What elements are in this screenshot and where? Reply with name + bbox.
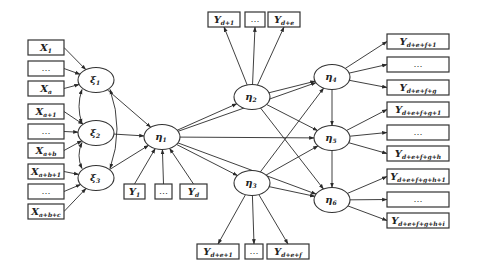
measurement-arrow [346,110,387,131]
latent-exogenous-xi3: ξ3 [78,166,114,191]
node-label: … [414,194,423,204]
structural-arrow-eta2-eta5 [266,104,317,130]
structural-arrow-eta1-eta5 [180,137,314,138]
measurement-arrow [259,195,288,244]
indicator-box-yd1: Yd+1 [208,12,240,27]
node-label: … [250,246,259,256]
node-label: … [251,14,260,24]
measurement-arrow [252,195,254,244]
covariance-arrow-xi1-xi2 [79,90,82,124]
measurement-arrow [64,172,79,175]
measurement-arrow [64,132,78,133]
measurement-arrow [64,48,86,70]
measurement-arrow [64,84,79,88]
indicator-box-y1: Y1 [124,184,145,199]
indicator-box-r9: Yd+e+f+g+h+i [387,213,449,228]
node-label: … [414,127,423,137]
measurement-arrow [257,27,284,85]
indicator-box-r1: Yd+e+f+1 [387,34,449,49]
indicator-box-x3: Xa [28,81,64,96]
measurement-arrow [350,133,387,137]
indicator-box-x1: X1 [28,40,64,55]
latent-endogenous-eta6: η6 [314,188,350,213]
node-label: … [42,63,51,73]
indicator-box-x6: Xa+b [28,143,64,158]
indicator-box-ydef: Yd+e+f [267,244,309,259]
latent-endogenous-eta3: η3 [234,171,270,196]
indicator-box-yd2: … [245,12,265,27]
indicator-box-r8: … [387,192,449,207]
latent-endogenous-eta4: η4 [314,65,350,90]
measurement-arrow [64,69,80,75]
latent-endogenous-eta2: η2 [234,85,270,110]
measurement-arrow [162,149,163,184]
measurement-arrow [64,141,82,151]
indicator-box-yd: Yd [180,184,207,199]
measurement-arrow [348,206,387,221]
measurement-arrow [135,149,156,184]
measurement-arrow [64,184,81,191]
indicator-box-x9: Xa+b+c [28,204,64,219]
indicator-box-r4: Yd+e+f+g+1 [387,102,449,117]
sem-path-diagram: ξ1ξ2ξ3η1η2η3η4η5η6X1…XaXa+1…Xa+bXa+b+1…X… [0,0,477,277]
measurement-arrow [347,177,387,194]
diagram-nodes: ξ1ξ2ξ3η1η2η3η4η5η6X1…XaXa+1…Xa+bXa+b+1…X… [28,12,449,259]
measurement-arrow [349,80,387,87]
indicator-box-yde: Yd+e [268,12,300,27]
indicator-box-r5: … [387,125,449,140]
structural-arrow-eta3-eta5 [266,146,318,175]
indicator-box-yde1: Yd+e+1 [197,244,239,259]
measurement-arrow [349,143,387,154]
node-label: … [159,186,168,196]
node-label: … [42,126,51,136]
indicator-box-x4: Xa+1 [28,104,64,119]
indicator-box-r7: Yd+e+f+g+h+1 [387,169,449,184]
structural-arrow-xi2-eta1 [114,134,144,136]
indicator-box-x2: … [28,61,64,76]
measurement-arrow [253,27,255,85]
structural-arrow-xi1-eta1 [107,90,150,128]
indicator-box-r3: Yd+e+f+g [387,80,449,95]
indicator-box-x7: Xa+b+1 [28,164,64,179]
node-label: … [414,59,423,69]
indicator-box-yde2: … [245,244,263,259]
measurement-arrow [170,148,194,184]
latent-exogenous-xi2: ξ2 [78,121,114,146]
indicator-box-r6: Yd+e+f+g+h [387,146,449,161]
latent-endogenous-eta1: η1 [144,125,180,150]
covariance-arrow-xi2-xi3 [79,143,82,169]
measurement-arrow [218,195,246,244]
indicator-box-x8: … [28,184,64,199]
structural-arrow-eta1-eta3 [176,144,237,175]
indicator-box-x5: … [28,124,64,139]
indicator-box-r2: … [387,57,449,72]
node-label: … [42,186,51,196]
measurement-arrow [349,65,387,74]
measurement-arrow [224,27,247,85]
latent-exogenous-xi1: ξ1 [78,68,114,93]
measurement-arrow [345,42,387,69]
structural-arrow-eta1-eta2 [177,104,237,131]
indicator-box-y2: … [155,184,172,199]
measurement-arrow [64,188,86,211]
latent-endogenous-eta5: η5 [314,126,350,151]
